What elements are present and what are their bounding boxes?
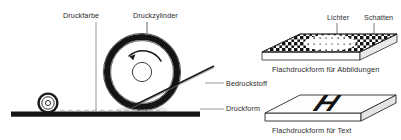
printing-form-bar [11, 112, 200, 117]
printing-press-diagram: H Druckfarbe Druckzylinder Bedruckstoff … [0, 0, 401, 140]
ink-roller [39, 94, 58, 113]
label-druckfarbe: Druckfarbe [63, 11, 99, 20]
label-bedruckstoff: Bedruckstoff [226, 79, 267, 88]
label-schatten: Schatten [364, 13, 393, 22]
halftone-plate [262, 34, 397, 60]
label-druckform: Druckform [226, 104, 260, 113]
caption-plate-text: Flachdruckform für Text [272, 126, 351, 135]
label-lichter: Lichter [327, 13, 349, 22]
caption-plate-images: Flachdruckform für Abbildungen [272, 65, 379, 74]
text-plate: H [265, 90, 396, 121]
label-druckzylinder: Druckzylinder [133, 11, 178, 20]
